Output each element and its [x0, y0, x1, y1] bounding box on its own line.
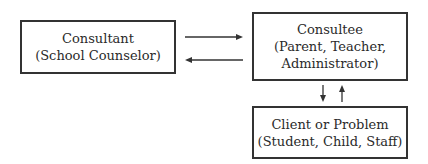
- consultee-subtitle-line1: (Parent, Teacher,: [274, 38, 386, 55]
- arrow-down-icon: [320, 85, 326, 102]
- client-title: Client or Problem: [271, 116, 388, 133]
- consultant-subtitle: (School Counselor): [35, 47, 161, 64]
- arrow-up-icon: [339, 85, 345, 102]
- arrow-left-icon: [185, 57, 243, 63]
- consultee-box: Consultee (Parent, Teacher, Administrato…: [252, 12, 408, 81]
- consultant-title: Consultant: [62, 30, 134, 47]
- arrow-right-icon: [185, 34, 243, 40]
- client-subtitle: (Student, Child, Staff): [258, 133, 403, 150]
- consultee-subtitle-line2: Administrator): [282, 55, 379, 72]
- consultee-title: Consultee: [297, 21, 363, 38]
- consultant-box: Consultant (School Counselor): [20, 20, 176, 74]
- client-problem-box: Client or Problem (Student, Child, Staff…: [252, 106, 408, 159]
